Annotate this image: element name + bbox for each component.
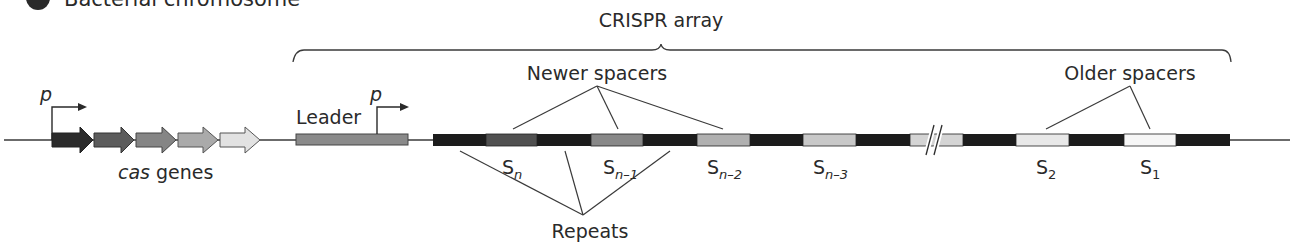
spacer-labels: Sn Sn–1 Sn–2 Sn–3 S2 S1: [502, 156, 1160, 182]
leader-label: Leader: [296, 106, 361, 128]
leader-region: Leader p: [296, 83, 409, 145]
panel-title: Bacterial chromosome: [64, 0, 300, 11]
spacer-label: Sn–3: [813, 156, 848, 182]
repeats-callout: Repeats: [460, 151, 670, 242]
spacer-sn-2: [697, 134, 750, 146]
promoter-label: p: [39, 83, 52, 105]
spacer-label: S1: [1140, 156, 1160, 182]
cas-gene-arrow-icon: [52, 127, 93, 153]
spacer-s1: [1124, 134, 1176, 146]
crispr-diagram: Bacterial chromosome CRISPR array p cas …: [0, 0, 1297, 245]
spacer-sn-3: [803, 134, 856, 146]
promoter-arrow-icon: [78, 103, 87, 111]
older-spacers-callout: Older spacers: [1046, 62, 1196, 129]
cas-gene-arrow-icon: [178, 127, 218, 153]
step-badge-icon: [26, 0, 50, 10]
cas-genes-label: cas genes: [118, 161, 213, 183]
promoter-arrow-icon: [400, 103, 409, 111]
older-spacers-label: Older spacers: [1064, 62, 1195, 84]
spacer-label: Sn–1: [603, 156, 638, 182]
promoter-label: p: [369, 83, 382, 105]
crispr-array-bar: [433, 125, 1230, 155]
repeats-label: Repeats: [552, 220, 629, 242]
spacer-s2: [1016, 134, 1069, 146]
crispr-array-brace: CRISPR array: [293, 9, 1231, 62]
cas-gene-arrow-icon: [136, 127, 176, 153]
crispr-array-label: CRISPR array: [599, 9, 724, 31]
spacer-label: Sn–2: [707, 156, 742, 182]
spacer-sn: [486, 134, 537, 146]
cas-gene-arrow-icon: [220, 127, 260, 153]
cas-genes: cas genes: [52, 127, 260, 183]
newer-spacers-callout: Newer spacers: [513, 62, 723, 129]
spacer-label: S2: [1036, 156, 1056, 182]
spacer-sn-1: [591, 134, 643, 146]
newer-spacers-label: Newer spacers: [527, 62, 667, 84]
cas-gene-arrow-icon: [94, 127, 134, 153]
panel-header: Bacterial chromosome: [26, 0, 300, 11]
